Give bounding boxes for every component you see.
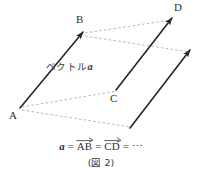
equation-equals-3: = — [123, 140, 129, 152]
equation-equals-1: = — [68, 140, 74, 152]
dashed-A-to-C — [22, 91, 117, 107]
figure-caption: (図 2) — [0, 157, 202, 169]
vector-CD-arrow — [116, 18, 172, 90]
equation-term-cd: CD — [104, 138, 119, 153]
vertex-label-b: B — [76, 14, 83, 25]
dashed-B-to-third-tip — [85, 36, 189, 52]
vertex-label-d: D — [174, 2, 182, 13]
solid-arrows-group — [20, 18, 190, 128]
vector-annotation: ベクトルa — [46, 61, 93, 72]
equation-term-ab: AB — [77, 138, 92, 153]
vector-annotation-symbol: a — [88, 61, 93, 72]
equation-line: a=AB=CD=⋯ — [0, 138, 202, 153]
equation-equals-2: = — [95, 140, 101, 152]
dashed-A-to-third-base — [22, 110, 130, 127]
vector-diagram — [0, 0, 202, 140]
vertex-label-c: C — [110, 93, 117, 104]
equation-term-cd-text: CD — [104, 139, 119, 153]
equation-ellipsis: ⋯ — [132, 140, 143, 152]
equation-term-ab-text: AB — [77, 139, 92, 153]
vertex-label-a: A — [9, 110, 17, 121]
vector-annotation-text: ベクトル — [46, 61, 88, 72]
vector-figure: A B C D ベクトルa a=AB=CD=⋯ (図 2) — [0, 0, 202, 178]
dashed-B-to-D — [85, 20, 171, 33]
equation-lhs: a — [59, 140, 65, 152]
dashed-lines-group — [22, 20, 189, 127]
